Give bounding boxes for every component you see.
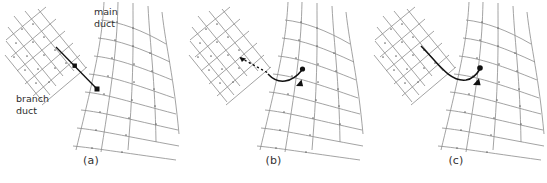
main-duct-mesh-nodes-b (275, 21, 341, 153)
label-main-duct: main duct (94, 6, 118, 29)
connector-line-a (56, 47, 100, 92)
panel-caption-a: (a) (0, 154, 182, 167)
panel-caption-b: (b) (182, 154, 365, 167)
main-duct-mesh-nodes-a (91, 21, 157, 153)
branch-duct-mesh-a (5, 7, 87, 105)
panel-c: (c) (365, 0, 547, 183)
main-duct-mesh-c (438, 2, 544, 160)
connector-dotted-b (240, 57, 269, 73)
panel-a: main duct branch duct (a) (0, 0, 182, 183)
branch-duct-mesh-b (189, 7, 271, 105)
figure-root: main duct branch duct (a) (0, 0, 547, 183)
branch-duct-mesh-c (374, 7, 456, 105)
connector-curve-c (421, 46, 483, 85)
panel-b: (b) (182, 0, 365, 183)
main-duct-mesh-b (257, 2, 363, 160)
label-branch-duct: branch duct (16, 93, 49, 116)
panel-caption-c: (c) (365, 154, 547, 167)
main-duct-mesh-nodes-c (456, 21, 522, 153)
